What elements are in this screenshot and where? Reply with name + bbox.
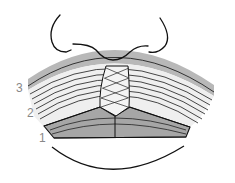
lower-lip-arc [52, 146, 184, 169]
diagram-canvas [0, 0, 235, 183]
label-layer-2: 2 [27, 107, 34, 119]
label-layer-1: 1 [39, 132, 46, 144]
central-lattice-outline [100, 66, 129, 116]
label-layer-3: 3 [16, 82, 23, 94]
